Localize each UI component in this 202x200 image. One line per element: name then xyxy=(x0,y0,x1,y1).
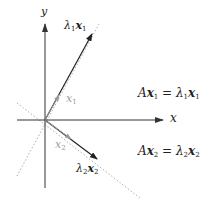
matrix-symbol: A xyxy=(138,144,147,158)
equals-sign: = xyxy=(158,144,176,158)
vector-x1 xyxy=(45,95,59,120)
eigenline-1-dotted xyxy=(17,24,99,176)
x-axis-label: x xyxy=(170,112,177,124)
vector-subscript: 2 xyxy=(61,144,65,152)
equation-eigen-1: Ax1 = λ1x1 xyxy=(138,87,200,101)
vector-x2 xyxy=(45,120,71,139)
y-axis-label: y xyxy=(41,6,47,17)
lambda-symbol: λ xyxy=(176,144,184,158)
vector-subscript: 1 xyxy=(72,98,76,106)
vector-subscript: 1 xyxy=(195,93,199,101)
lambda-symbol: λ xyxy=(64,19,71,32)
vector-subscript: 2 xyxy=(94,168,98,176)
label-lambda1-x1: λ1x1 xyxy=(64,20,86,33)
label-x1: x1 xyxy=(66,93,77,106)
vector-symbol: x xyxy=(147,144,154,158)
eigenline-2-dotted xyxy=(17,103,140,198)
eigenvector-diagram: y x λ1x1 x1 x2 λ2x2 Ax1 = λ1x1 Ax2 = λ2x… xyxy=(0,0,202,200)
lambda-symbol: λ xyxy=(76,162,83,175)
vector-subscript: 1 xyxy=(82,25,86,33)
matrix-symbol: A xyxy=(138,86,147,100)
vector-symbol: x xyxy=(147,86,154,100)
lambda-symbol: λ xyxy=(176,86,184,100)
equals-sign: = xyxy=(158,86,176,100)
label-lambda2-x2: λ2x2 xyxy=(76,163,98,176)
label-x2: x2 xyxy=(55,139,66,152)
vector-subscript: 2 xyxy=(195,151,199,159)
equation-eigen-2: Ax2 = λ2x2 xyxy=(138,145,200,159)
